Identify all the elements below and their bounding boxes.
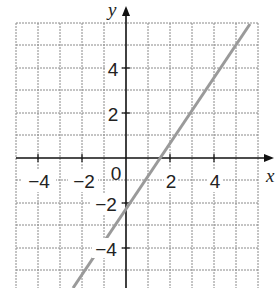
x-tick-label: 2: [166, 171, 177, 192]
y-tick-label: 4: [108, 59, 119, 80]
x-tick-label: −2: [73, 171, 95, 192]
y-axis-label: y: [106, 0, 117, 20]
x-tick-label: −4: [28, 171, 50, 192]
origin-label: 0: [111, 163, 122, 184]
x-tick-label: 4: [210, 171, 221, 192]
y-tick-label: 2: [108, 104, 119, 125]
coordinate-plane: −4 −2 2 4 4 2 −2 −4 0 x y: [0, 0, 279, 288]
y-axis-arrow-icon: [122, 6, 130, 16]
y-tick-label: −2: [95, 194, 117, 215]
x-axis-label: x: [265, 165, 275, 186]
grid: [16, 23, 258, 288]
x-axis-arrow-icon: [264, 154, 274, 162]
y-tick-label: −4: [95, 239, 117, 260]
